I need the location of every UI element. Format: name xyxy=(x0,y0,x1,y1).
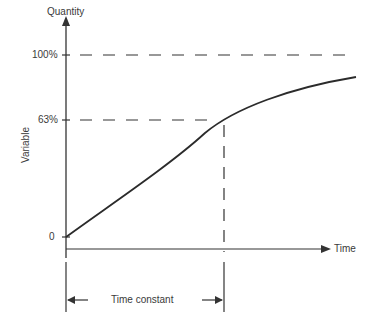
x-axis-arrow-icon xyxy=(321,245,331,253)
y-axis-title: Quantity xyxy=(47,7,84,17)
exponential-curve xyxy=(66,77,356,237)
tick-label-100: 100% xyxy=(32,50,58,60)
x-axis-label: Time xyxy=(334,244,356,254)
tc-left-arrowhead-icon xyxy=(67,296,75,304)
tick-label-0: 0 xyxy=(49,232,55,242)
y-axis-label: Variable xyxy=(21,127,31,163)
tick-label-63: 63% xyxy=(38,115,58,125)
y-axis-arrow-icon xyxy=(62,16,70,26)
tc-right-arrowhead-icon xyxy=(215,296,223,304)
time-constant-label: Time constant xyxy=(111,295,173,305)
